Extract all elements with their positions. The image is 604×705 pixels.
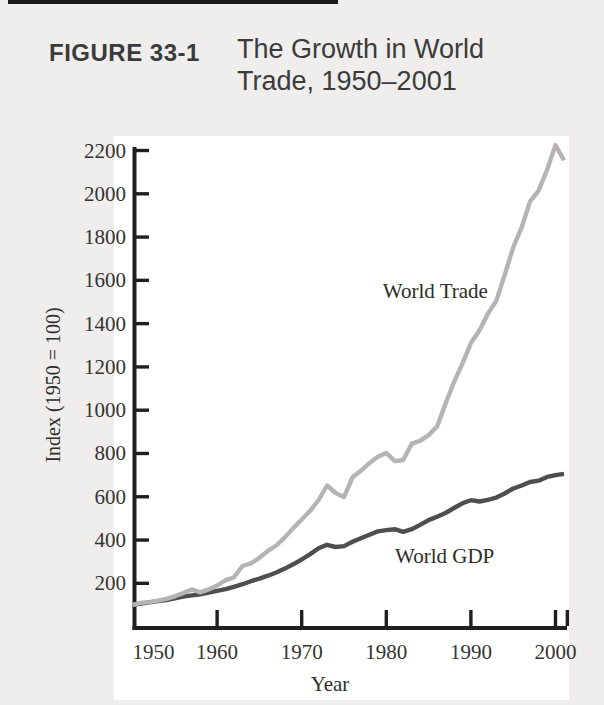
y-tick-label: 400 [60,529,126,551]
x-tick-label: 1970 [262,641,342,663]
y-tick-label: 1800 [60,226,126,248]
y-tick-label: 1200 [60,356,126,378]
y-tick-label: 2000 [60,183,126,205]
y-tick-label: 1400 [60,313,126,335]
y-tick-label: 1000 [60,399,126,421]
x-tick-label: 1960 [177,641,257,663]
x-tick-label: 1980 [346,641,426,663]
series-label: World GDP [395,544,494,569]
y-tick-label: 600 [60,486,126,508]
x-tick-label: 2000 [516,641,596,663]
y-axis-title: Index (1950 = 100) [42,307,65,462]
world-trade-line [133,145,565,605]
world-gdp-line [133,474,565,605]
x-tick-label: 1990 [431,641,511,663]
line-chart [0,0,604,705]
y-tick-label: 1600 [60,269,126,291]
x-axis-title: Year [311,672,350,697]
y-tick-label: 200 [60,572,126,594]
textbook-figure-page: FIGURE 33-1 The Growth in World Trade, 1… [0,0,604,705]
data-series [133,145,565,605]
series-label: World Trade [383,278,488,303]
y-tick-label: 800 [60,442,126,464]
axes [133,147,568,630]
y-tick-label: 2200 [60,140,126,162]
